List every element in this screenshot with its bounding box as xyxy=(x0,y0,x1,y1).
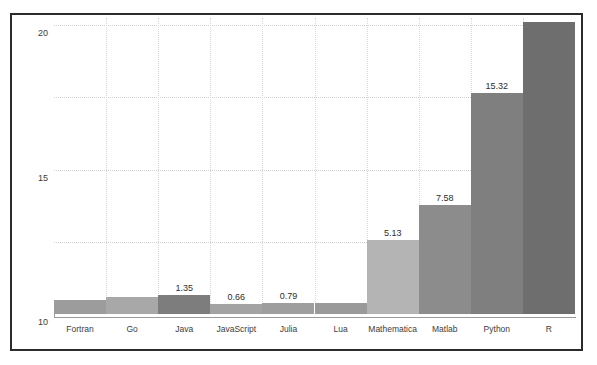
x-tick-label-fortran: Fortran xyxy=(66,325,93,334)
x-tick-label-javascript: JavaScript xyxy=(217,325,257,334)
x-gridline xyxy=(158,18,159,314)
x-tick-label-matlab: Matlab xyxy=(432,325,458,334)
y-tick-label: 15 xyxy=(38,173,48,182)
y-tick-label: 10 xyxy=(38,318,48,327)
x-tick-label-julia: Julia xyxy=(280,325,297,334)
x-tick-label-mathematica: Mathematica xyxy=(368,325,417,334)
bar-value-label: 0.66 xyxy=(228,293,246,302)
bar-fortran[interactable] xyxy=(54,300,106,314)
bar-value-label: 0.79 xyxy=(280,292,298,301)
x-tick-label-go: Go xyxy=(126,325,137,334)
chart-figure-frame: speed relative to C 05101520FortranGo1.3… xyxy=(10,13,583,351)
x-gridline xyxy=(210,18,211,314)
x-gridline xyxy=(262,18,263,314)
bar-lua[interactable] xyxy=(315,303,367,314)
y-tick-label: 20 xyxy=(38,29,48,38)
bar-go[interactable] xyxy=(106,297,158,314)
x-gridline xyxy=(315,18,316,314)
bar-javascript[interactable]: 0.66 xyxy=(210,304,262,314)
bar-mathematica[interactable]: 5.13 xyxy=(367,240,419,314)
bar-julia[interactable]: 0.79 xyxy=(262,303,314,314)
x-gridline xyxy=(106,18,107,314)
x-axis-spine xyxy=(54,317,576,318)
bar-value-label: 7.58 xyxy=(436,194,454,203)
bar-java[interactable]: 1.35 xyxy=(158,295,210,314)
plot-area: 05101520FortranGo1.35Java0.66JavaScript0… xyxy=(54,18,575,314)
x-tick-label-r: R xyxy=(546,325,552,334)
bar-r[interactable] xyxy=(523,22,575,314)
bar-value-label: 5.13 xyxy=(384,229,402,238)
bar-python[interactable]: 15.32 xyxy=(471,93,523,314)
bar-matlab[interactable]: 7.58 xyxy=(419,205,471,314)
x-tick-label-python: Python xyxy=(484,325,510,334)
bar-value-label: 1.35 xyxy=(175,284,193,293)
x-tick-label-lua: Lua xyxy=(333,325,347,334)
chart-figure-inner: speed relative to C 05101520FortranGo1.3… xyxy=(12,15,581,349)
x-tick-label-java: Java xyxy=(175,325,193,334)
bar-value-label: 15.32 xyxy=(486,82,509,91)
